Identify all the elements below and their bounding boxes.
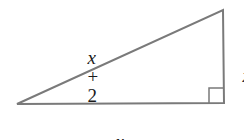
hypotenuse-constant: 2	[88, 85, 98, 106]
vertical-leg-variable: x	[243, 65, 245, 86]
horizontal-leg-variable: x	[116, 131, 124, 140]
hypotenuse-label: x + 2	[78, 29, 98, 105]
right-angle-marker	[209, 88, 224, 103]
hypotenuse-operator: +	[88, 66, 99, 87]
hypotenuse-variable: x	[88, 47, 96, 68]
horizontal-leg-label: x + 1	[106, 113, 126, 140]
triangle-outline	[17, 10, 224, 104]
vertical-leg-label: x	[233, 47, 244, 85]
